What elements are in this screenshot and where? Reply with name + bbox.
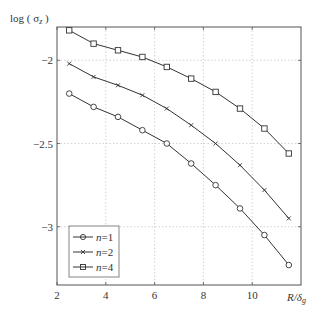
x-axis-label: R/δg bbox=[286, 291, 306, 305]
y-axis-label: log ( σz ) bbox=[10, 12, 49, 26]
x-tick-label: 8 bbox=[201, 289, 207, 301]
y-tick-label: −2 bbox=[41, 54, 53, 66]
x-tick-label: 10 bbox=[247, 289, 259, 301]
svg-text:n=4: n=4 bbox=[96, 261, 114, 273]
legend: n=1 n=2 n=4 bbox=[69, 226, 119, 277]
svg-text:n=1: n=1 bbox=[96, 231, 113, 243]
line-chart: 246810−2−2.5−3 log ( σz ) R/δg n=1 n=2 n… bbox=[0, 0, 323, 324]
x-tick-label: 6 bbox=[152, 289, 158, 301]
y-tick-label: −2.5 bbox=[33, 138, 53, 150]
svg-text:n=2: n=2 bbox=[96, 246, 113, 258]
y-tick-label: −3 bbox=[41, 221, 53, 233]
x-tick-label: 2 bbox=[54, 289, 60, 301]
series-n2 bbox=[67, 62, 291, 221]
x-tick-label: 4 bbox=[103, 289, 109, 301]
series-n4 bbox=[67, 28, 292, 157]
